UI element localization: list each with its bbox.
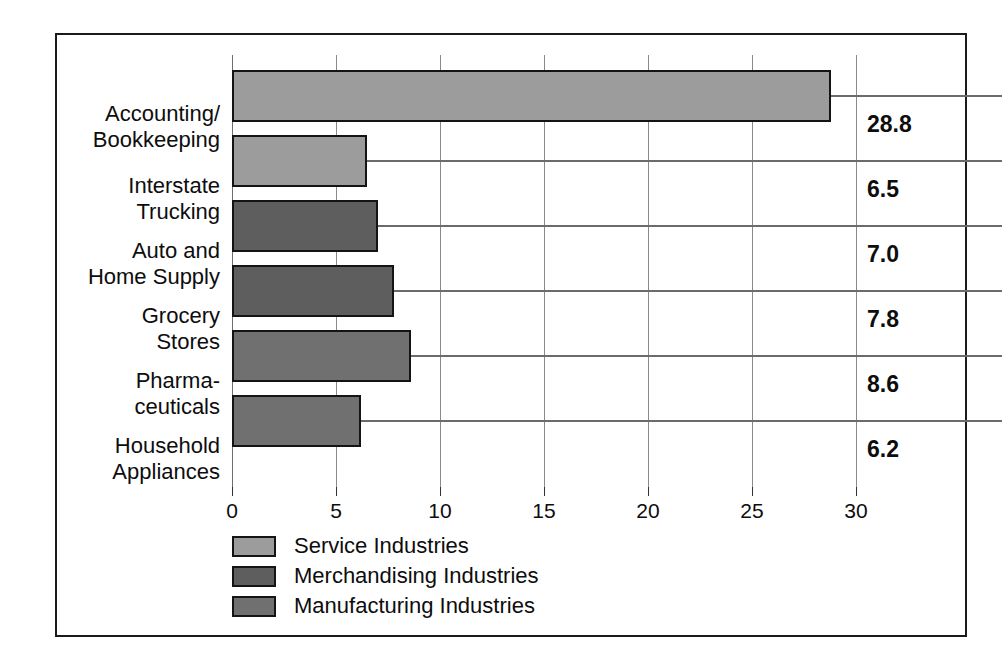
x-tick-label: 15 xyxy=(532,499,555,523)
legend-swatch-icon xyxy=(232,566,276,587)
legend-item-service[interactable]: Service Industries xyxy=(232,531,539,561)
x-tick-label: 10 xyxy=(428,499,451,523)
bar-accounting-bookkeeping[interactable] xyxy=(232,70,831,122)
legend-label: Service Industries xyxy=(294,533,469,559)
tick-mark xyxy=(752,487,753,496)
legend-swatch-icon xyxy=(232,596,276,617)
bar-pharmaceuticals[interactable] xyxy=(232,330,411,382)
x-tick-label: 5 xyxy=(330,499,342,523)
tick-mark xyxy=(232,487,233,496)
bar-interstate-trucking[interactable] xyxy=(232,135,367,187)
tick-mark xyxy=(544,487,545,496)
category-label: Interstate Trucking xyxy=(0,173,220,225)
chart-frame: Accounting/ Bookkeeping Interstate Truck… xyxy=(55,33,967,637)
chart-legend: Service Industries Merchandising Industr… xyxy=(232,531,539,621)
category-label: Household Appliances xyxy=(0,433,220,485)
tick-mark xyxy=(648,487,649,496)
legend-item-manufacturing[interactable]: Manufacturing Industries xyxy=(232,591,539,621)
legend-item-merchandising[interactable]: Merchandising Industries xyxy=(232,561,539,591)
category-label: Accounting/ Bookkeeping xyxy=(0,101,220,153)
category-label: Pharma- ceuticals xyxy=(0,368,220,420)
bar-row xyxy=(232,200,1002,252)
tick-mark xyxy=(856,487,857,496)
tick-mark xyxy=(440,487,441,496)
bar-row xyxy=(232,135,1002,187)
x-tick-label: 30 xyxy=(844,499,867,523)
x-tick-label: 25 xyxy=(740,499,763,523)
bar-household-appliances[interactable] xyxy=(232,395,361,447)
legend-label: Manufacturing Industries xyxy=(294,593,535,619)
x-tick-label: 0 xyxy=(226,499,238,523)
category-label: Auto and Home Supply xyxy=(0,238,220,290)
bar-auto-and-home-supply[interactable] xyxy=(232,200,378,252)
category-label: Grocery Stores xyxy=(0,303,220,355)
bar-row xyxy=(232,265,1002,317)
bar-grocery-stores[interactable] xyxy=(232,265,394,317)
legend-swatch-icon xyxy=(232,536,276,557)
plot-area: 0 5 10 15 20 25 30 xyxy=(232,55,922,487)
x-tick-label: 20 xyxy=(636,499,659,523)
legend-label: Merchandising Industries xyxy=(294,563,539,589)
bar-row xyxy=(232,70,1002,122)
bar-row xyxy=(232,330,1002,382)
tick-mark xyxy=(336,487,337,496)
bar-row xyxy=(232,395,1002,447)
